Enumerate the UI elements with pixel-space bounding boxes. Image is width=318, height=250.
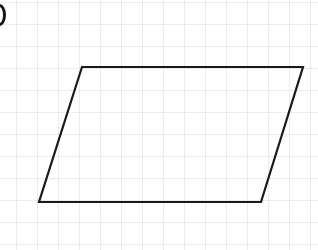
parallelogram-outline [39,67,303,202]
grid-paper-background [0,0,318,250]
worksheet-canvas [0,0,318,250]
parallelogram-figure [0,0,318,250]
